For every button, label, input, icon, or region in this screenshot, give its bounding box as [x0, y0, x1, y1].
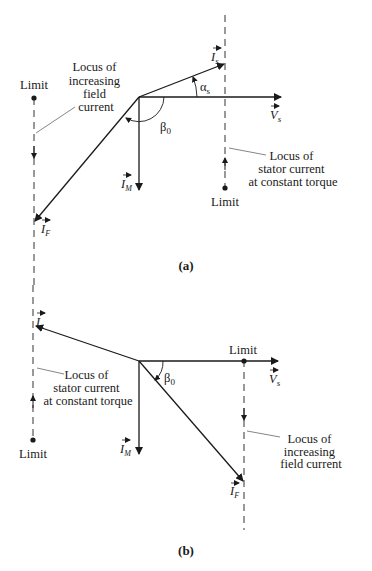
diagram-b: Limit Limit β0 Is Vs IM IF [19, 285, 342, 558]
vs-label: Vs [270, 106, 282, 124]
caption-b: (b) [178, 543, 194, 558]
is-vector [36, 326, 139, 361]
is-label: Is [35, 313, 45, 331]
beta-label: β0 [164, 371, 175, 387]
is-label: Is [210, 48, 221, 66]
if-label: IF [40, 220, 50, 238]
svg-text:IM: IM [119, 442, 132, 458]
svg-text:IF: IF [40, 222, 50, 238]
limit-label-right: Limit [229, 343, 257, 357]
limit-label-left: Limit [19, 447, 47, 461]
stator-locus-label: Locus of stator current at constant torq… [44, 368, 133, 408]
alpha-angle-arc [193, 77, 197, 97]
limit-label-left: Limit [20, 78, 48, 92]
svg-text:IF: IF [229, 484, 239, 500]
alpha-label: αs [200, 80, 211, 96]
field-locus-label: Locus of increasing field current [69, 60, 124, 114]
field-locus-label: Locus of increasing field current [280, 432, 342, 471]
limit-dot [222, 185, 227, 190]
caption-a: (a) [178, 258, 193, 273]
stator-locus-leader [37, 368, 64, 374]
stator-locus-label: Locus of stator current at constant torq… [249, 149, 338, 189]
im-label: IM [120, 175, 133, 193]
if-vector [139, 361, 243, 481]
svg-text:Is: Is [35, 315, 44, 331]
field-locus-leader [247, 431, 280, 437]
if-vector [35, 97, 139, 221]
stator-locus-leader [229, 148, 266, 155]
limit-dot [30, 437, 35, 442]
svg-text:Vs: Vs [269, 372, 281, 388]
im-label: IM [119, 440, 132, 458]
field-locus-leader [36, 107, 75, 133]
phasor-diagrams: Limit Limit β0 αs Is Vs IM [0, 0, 372, 571]
diagram-a: Limit Limit β0 αs Is Vs IM [20, 15, 338, 290]
svg-text:Is: Is [210, 50, 219, 66]
svg-text:IM: IM [120, 177, 133, 193]
beta-angle-arc [155, 361, 163, 380]
beta-label: β0 [160, 120, 171, 136]
is-vector [139, 64, 224, 97]
limit-label-right: Limit [211, 195, 239, 209]
if-label: IF [229, 483, 239, 500]
svg-text:Vs: Vs [270, 108, 282, 124]
vs-label: Vs [269, 370, 281, 388]
beta-angle-arc [126, 97, 164, 122]
limit-dot [31, 95, 36, 100]
